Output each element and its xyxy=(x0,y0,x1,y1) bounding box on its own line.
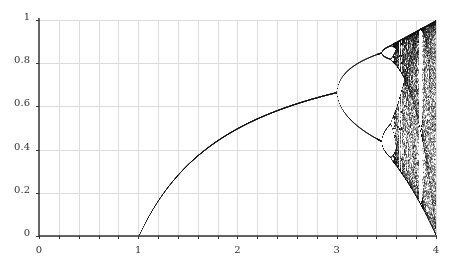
y-tick-label: 1 xyxy=(6,11,30,22)
x-tick-label: 2 xyxy=(228,244,248,255)
y-tick-label: 0 xyxy=(6,227,30,238)
x-tick-label: 4 xyxy=(426,244,446,255)
y-tick-label: 0.6 xyxy=(6,97,30,108)
x-tick-label: 0 xyxy=(29,244,49,255)
x-tick-label: 3 xyxy=(327,244,347,255)
x-tick-label: 1 xyxy=(128,244,148,255)
y-tick-label: 0.4 xyxy=(6,141,30,152)
plot-canvas xyxy=(0,0,450,269)
bifurcation-chart: 00.20.40.60.8101234 xyxy=(0,0,450,269)
y-tick-label: 0.2 xyxy=(6,184,30,195)
y-tick-label: 0.8 xyxy=(6,54,30,65)
